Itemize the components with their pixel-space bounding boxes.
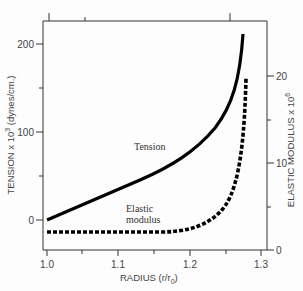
x-tick-1.2: 1.2 bbox=[183, 259, 197, 270]
tension-annotation: Tension bbox=[134, 141, 166, 152]
y-left-axis-title: TENSION x 103 (dynes/cm.) bbox=[4, 76, 16, 195]
y-right-axis-title: ELASTIC MODULUS x 106 bbox=[284, 93, 296, 207]
x-axis-ticks bbox=[47, 250, 261, 256]
elastic-annotation-line1: Elastic bbox=[126, 203, 154, 214]
x-axis-title: RADIUS (r/r0) bbox=[120, 272, 178, 285]
chart-svg: 1.0 1.1 1.2 1.3 0 100 200 0 10 20 RADIUS… bbox=[0, 0, 303, 291]
x-tick-1.0: 1.0 bbox=[40, 259, 54, 270]
y-right-tick-20: 20 bbox=[276, 71, 288, 82]
y-left-tick-200: 200 bbox=[17, 39, 34, 50]
x-tick-1.3: 1.3 bbox=[254, 259, 268, 270]
chart-figure: 1.0 1.1 1.2 1.3 0 100 200 0 10 20 RADIUS… bbox=[0, 0, 303, 291]
y-left-tick-0: 0 bbox=[28, 215, 34, 226]
y-right-ticks bbox=[267, 76, 274, 250]
top-ticks bbox=[49, 13, 230, 21]
tension-line bbox=[47, 34, 243, 220]
elastic-annotation-line2: modulus bbox=[126, 214, 161, 225]
y-right-tick-0: 0 bbox=[276, 245, 282, 256]
y-left-tick-100: 100 bbox=[17, 127, 34, 138]
x-tick-1.1: 1.1 bbox=[111, 259, 125, 270]
y-left-ticks bbox=[36, 44, 43, 220]
